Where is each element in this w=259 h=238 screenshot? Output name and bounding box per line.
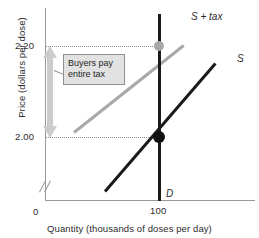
demand-label: D — [166, 188, 173, 199]
supply-plus-tax-label: S + tax — [191, 11, 222, 22]
equilibrium-point-no-tax — [153, 131, 165, 143]
y-tick-label-200: 2.00 — [15, 131, 34, 142]
x-tick-label-100: 100 — [150, 205, 166, 216]
y-axis-title: Price (dollars per dose) — [16, 8, 27, 128]
price-guide-200 — [46, 137, 161, 138]
annotation-line-1: Buyers pay — [68, 58, 120, 69]
x-axis-line — [45, 200, 255, 201]
supply-demand-tax-chart: S + tax S D 2.20 2.00 0 100 Price (dolla… — [0, 0, 259, 238]
annotation-line-2: entire tax — [68, 69, 120, 80]
tax-span-arrow-icon — [42, 45, 58, 139]
origin-label: 0 — [33, 206, 38, 217]
price-guide-220 — [46, 46, 161, 47]
annotation-buyers-pay-entire-tax: Buyers pay entire tax — [63, 54, 125, 85]
equilibrium-point-with-tax — [154, 41, 164, 51]
x-axis-title: Quantity (thousands of doses per day) — [0, 223, 259, 234]
supply-label: S — [237, 53, 244, 64]
